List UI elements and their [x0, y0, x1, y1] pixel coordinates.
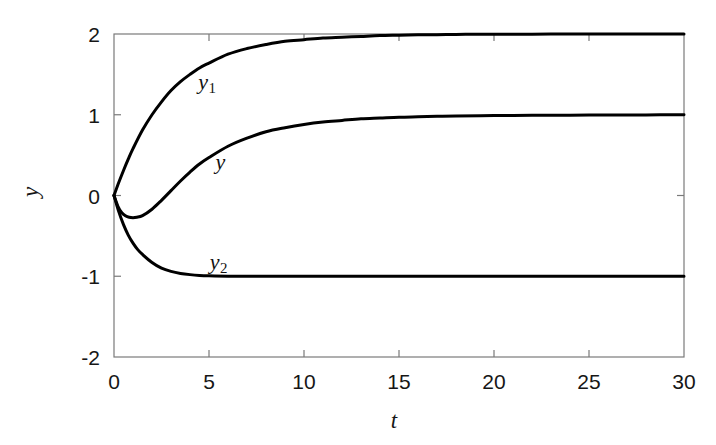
curve-y — [114, 115, 684, 218]
y-tick-label: -1 — [0, 266, 100, 287]
y-tick-label: 0 — [0, 185, 100, 206]
curve-label-subscript: 2 — [220, 261, 227, 277]
y-tick-label: 1 — [0, 104, 100, 125]
x-tick-label: 15 — [387, 371, 410, 392]
x-axis-title: t — [391, 409, 397, 432]
curve-label-base: y — [210, 250, 220, 275]
x-tick-label: 0 — [108, 371, 120, 392]
y-tick-label: -2 — [0, 347, 100, 368]
curve-label-base: y — [216, 149, 226, 174]
figure-canvas: 210-1-2 051015202530 y t y1yy2 — [0, 0, 716, 445]
curve-label-y: y — [216, 151, 226, 173]
curve-label-y1: y1 — [198, 71, 216, 96]
curve-label-base: y — [198, 69, 208, 94]
x-tick-label: 10 — [292, 371, 315, 392]
y-axis-title: y — [19, 187, 42, 197]
curve-y2 — [114, 196, 684, 277]
curve-label-subscript: 1 — [208, 81, 215, 97]
curve-label-y2: y2 — [210, 252, 228, 277]
y-tick-label: 2 — [0, 24, 100, 45]
x-tick-label: 5 — [203, 371, 215, 392]
x-tick-label: 25 — [577, 371, 600, 392]
x-tick-label: 30 — [672, 371, 695, 392]
x-tick-label: 20 — [482, 371, 505, 392]
